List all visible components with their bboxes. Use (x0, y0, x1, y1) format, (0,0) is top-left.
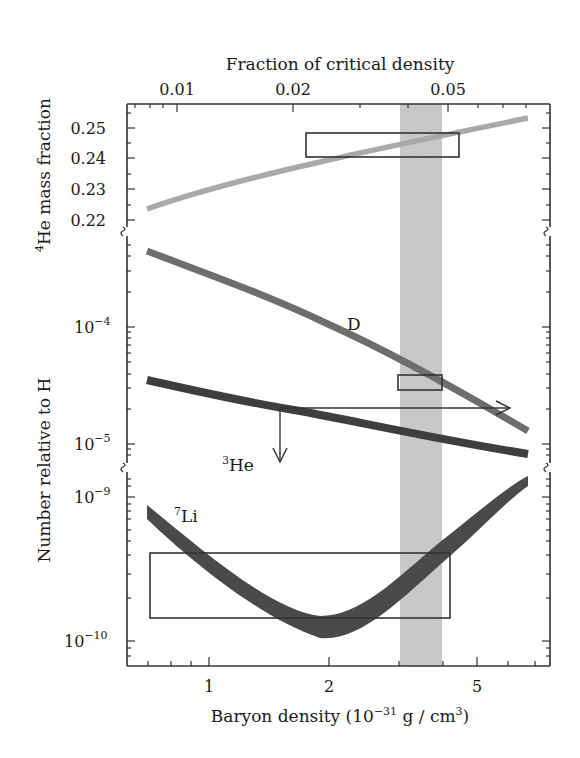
plot-frame (127, 104, 550, 666)
y-tick-0.23: 0.23 (70, 180, 106, 199)
he4-curve (147, 118, 528, 209)
li7-curve (147, 476, 528, 638)
y-tick-1e-9: 10−9 (74, 485, 111, 507)
y-tick-1e-4: 10−4 (74, 315, 111, 337)
deuterium-curve (147, 251, 528, 431)
y-tick-1e-10: 10−10 (64, 629, 108, 651)
y-tick-0.22: 0.22 (70, 211, 106, 230)
y-tick-1e-5: 10−5 (74, 432, 111, 454)
x-axis-label: Baryon density (10−31 g / cm3) (211, 705, 469, 726)
y-tick-0.24: 0.24 (70, 149, 106, 168)
li7-label: 7Li (174, 505, 198, 526)
top-tick-0.05: 0.05 (430, 80, 466, 99)
bbn-abundance-chart: Fraction of critical density 0.01 0.02 0… (0, 0, 580, 758)
top-axis-title: Fraction of critical density (226, 54, 455, 74)
top-tick-0.02: 0.02 (275, 80, 311, 99)
x-tick-1: 1 (204, 677, 214, 696)
x-axis-ticks (135, 104, 535, 666)
he3-label: 3He (222, 454, 254, 475)
y-axis-label-number: Number relative to H (34, 378, 54, 563)
y-axis-label-he4: 4He mass fraction (33, 98, 54, 252)
x-tick-2: 2 (324, 677, 334, 696)
y-tick-0.25: 0.25 (70, 119, 106, 138)
chart-svg: Fraction of critical density 0.01 0.02 0… (0, 0, 580, 758)
x-tick-5: 5 (472, 677, 482, 696)
top-tick-0.01: 0.01 (159, 80, 195, 99)
he3-curve (147, 380, 528, 454)
d-label: D (347, 314, 361, 334)
